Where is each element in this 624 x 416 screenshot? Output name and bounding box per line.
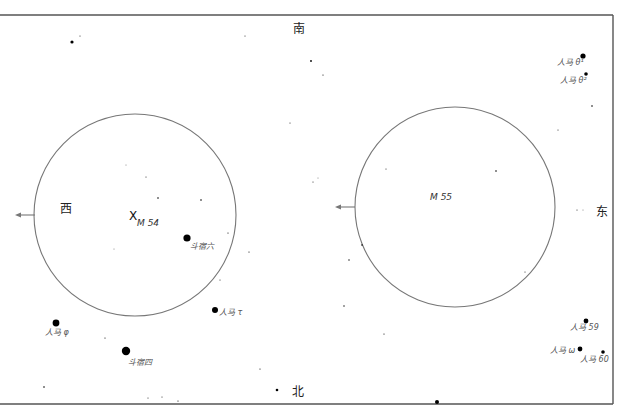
named-star-dou6 (183, 234, 190, 241)
field-star (313, 182, 314, 183)
field-star (290, 123, 291, 124)
drift-arrow-head-icon (335, 205, 341, 210)
field-star (162, 397, 163, 398)
field-star (220, 280, 221, 281)
named-star-sgr_tau (212, 307, 218, 313)
field-star (80, 36, 81, 37)
field-star (248, 251, 249, 252)
star-label-sgr-59: 人马 59 (570, 324, 599, 332)
star-label-sgr-tau: 人马 τ (219, 309, 242, 317)
star-label-sgr-60: 人马 60 (580, 356, 609, 364)
star-chart (0, 0, 624, 416)
direction-east-label: 东 (596, 206, 608, 218)
star-label-dou6: 斗宿六 (190, 243, 214, 251)
field-star (227, 232, 228, 233)
field-star (361, 244, 363, 246)
field-star (591, 105, 593, 107)
telescope-fields (15, 107, 555, 316)
field-circle (355, 107, 555, 307)
direction-south-label: 南 (293, 23, 305, 35)
star-label-sgr-theta1: 人马 θ¹ (557, 59, 584, 67)
field-star (386, 169, 387, 170)
field-star (558, 130, 559, 131)
field-star (318, 178, 319, 179)
field-star (322, 74, 323, 75)
field-star (343, 305, 344, 306)
field-star (200, 199, 202, 201)
field-star (383, 333, 384, 334)
field-star (577, 210, 578, 211)
star-label-sgr-omega: 人马 ω (550, 347, 575, 355)
named-star-dou4 (122, 347, 130, 355)
m54-position-marker: X (129, 210, 137, 222)
chart-frame (0, 15, 613, 404)
field-star (114, 249, 115, 250)
m54-label: M 54 (137, 219, 159, 228)
star-label-dou4: 斗宿四 (128, 359, 152, 367)
field-star (276, 389, 279, 392)
star-label-sgr-phi: 人马 φ (45, 329, 69, 337)
direction-west-label: 西 (60, 203, 72, 215)
field-star (525, 272, 526, 273)
field-star (348, 259, 349, 260)
field-star (146, 177, 147, 178)
field-star (157, 197, 159, 199)
field-star (104, 337, 105, 338)
field-star (310, 60, 312, 62)
named-star-sgr_phi (53, 320, 60, 327)
field-star (245, 36, 246, 37)
field-star (148, 398, 149, 399)
star-label-sgr-theta2: 人马 θ² (560, 77, 587, 85)
named-star-sgr_omega (578, 347, 583, 352)
field-star (259, 368, 260, 369)
named-star-sgr_60 (601, 350, 605, 354)
direction-north-label: 北 (292, 386, 304, 398)
field-star (495, 170, 497, 172)
named-stars (53, 53, 605, 355)
field-star (70, 40, 73, 43)
field-star (583, 210, 584, 211)
field-star (43, 386, 45, 388)
m55-label: M 55 (430, 193, 452, 202)
field-star (126, 165, 127, 166)
field-star (435, 400, 439, 404)
drift-arrow-head-icon (15, 213, 21, 218)
field-star (177, 400, 178, 401)
